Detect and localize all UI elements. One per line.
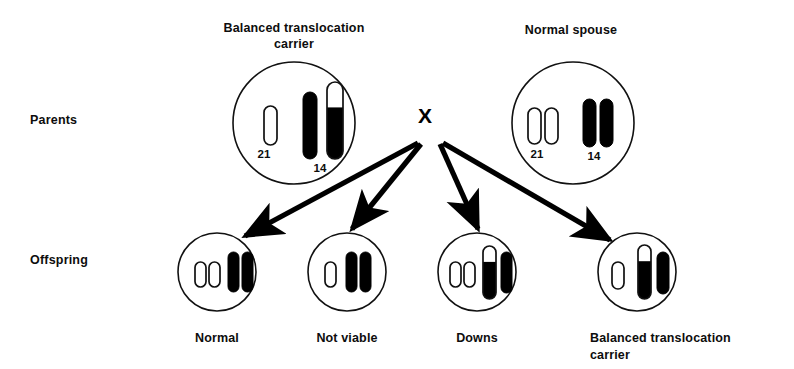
- parent-carrier-21-unfilled: [264, 106, 277, 145]
- chromosome-body: [501, 252, 512, 293]
- offspring-downs-14-21-translocation: [482, 246, 497, 299]
- chromosome-body: [303, 92, 317, 159]
- parent-carrier-14-filled: [303, 92, 317, 159]
- inheritance-arrows: [245, 143, 610, 240]
- parent-carrier-label-21: 21: [258, 148, 271, 160]
- offspring-not-viable-21-unfilled-a: [325, 262, 336, 287]
- arrow-to-balanced-carrier: [443, 143, 610, 240]
- offspring-downs-14-filled-a: [501, 252, 512, 293]
- row-label-parents: Parents: [30, 113, 77, 127]
- offspring-not-viable-14-filled-b: [360, 252, 371, 292]
- offspring-normal-21-unfilled-a: [195, 262, 206, 287]
- offspring-normal-14-filled-a: [228, 252, 239, 292]
- caption-offspring-not-viable: Not viable: [282, 330, 412, 347]
- diagram-canvas: 21142114: [0, 0, 794, 369]
- chromosome-body: [528, 108, 541, 144]
- chromosome-body: [264, 106, 277, 145]
- offspring-balanced-carrier-21-unfilled-a: [612, 262, 624, 289]
- parent-normal-21-unfilled-b: [545, 108, 558, 144]
- caption-offspring-downs: Downs: [412, 330, 542, 347]
- cross-symbol: X: [418, 104, 432, 128]
- translocation-inheritance-diagram: 21142114 Parents Offspring Balanced tran…: [0, 0, 794, 369]
- chromosome-body: [195, 262, 206, 287]
- chromosome-lower-segment: [482, 262, 497, 299]
- offspring-normal-14-filled-b: [242, 252, 253, 292]
- chromosome-body: [583, 99, 596, 147]
- chromosome-body: [612, 262, 624, 289]
- chromosome-body: [657, 252, 669, 294]
- offspring-balanced-carrier-14-filled-a: [657, 252, 669, 294]
- caption-parent-balanced-translocation-carrier: Balanced translocation carrier: [212, 20, 376, 52]
- chromosome-body: [325, 262, 336, 287]
- chromosome-body: [464, 262, 475, 287]
- arrow-to-downs: [440, 144, 478, 229]
- chromosome-body: [450, 262, 461, 287]
- chromosome-body: [360, 252, 371, 292]
- chromosome-body: [545, 108, 558, 144]
- parent-carrier-label-14: 14: [314, 162, 327, 174]
- chromosome-body: [228, 252, 239, 292]
- parent-normal-21-unfilled-a: [528, 108, 541, 144]
- parent-normal-label-21: 21: [531, 148, 544, 160]
- parent-normal-14-filled-a: [583, 99, 596, 147]
- offspring-downs-21-unfilled-b: [464, 262, 475, 287]
- arrow-to-not-viable: [352, 144, 421, 229]
- chromosome-lower-segment: [637, 261, 652, 299]
- chromosome-lower-segment: [326, 107, 344, 159]
- chromosome-body: [242, 252, 253, 292]
- chromosome-body: [600, 99, 613, 147]
- chromosome-body: [346, 252, 357, 292]
- offspring-not-viable-14-filled-a: [346, 252, 357, 292]
- caption-offspring-balanced-translocation-carrier: Balanced translocation carrier: [590, 330, 772, 364]
- parent-normal-label-14: 14: [588, 150, 601, 162]
- parent-carrier-14-21-translocation: [326, 82, 344, 159]
- caption-offspring-normal: Normal: [152, 330, 282, 347]
- offspring-normal-21-unfilled-b: [209, 262, 220, 287]
- offspring-downs-21-unfilled-a: [450, 262, 461, 287]
- offspring-balanced-carrier-14-21-translocation: [637, 245, 652, 299]
- chromosome-body: [209, 262, 220, 287]
- row-label-offspring: Offspring: [30, 253, 88, 267]
- parent-normal-14-filled-b: [600, 99, 613, 147]
- caption-parent-normal-spouse: Normal spouse: [492, 22, 650, 38]
